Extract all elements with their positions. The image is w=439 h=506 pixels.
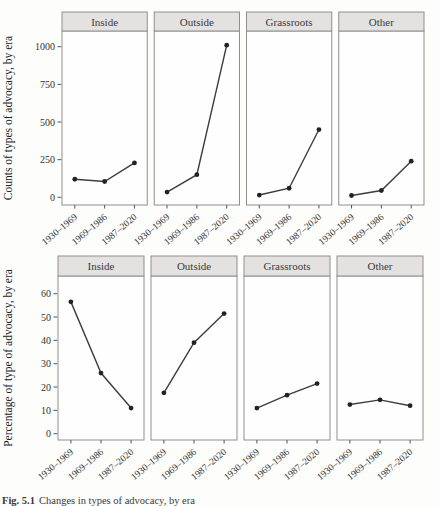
data-point bbox=[129, 406, 134, 411]
data-point bbox=[285, 393, 290, 398]
data-point bbox=[315, 381, 320, 386]
y-tick-label: 30 bbox=[41, 358, 51, 369]
facet-strip-label: Grassroots bbox=[263, 260, 310, 272]
y-tick-label: 40 bbox=[41, 335, 51, 346]
data-point bbox=[194, 172, 199, 177]
y-axis-title: Percentage of type of advocacy, by era bbox=[2, 269, 15, 447]
data-point bbox=[409, 159, 414, 164]
data-point bbox=[348, 402, 353, 407]
data-point bbox=[379, 188, 384, 193]
data-point bbox=[132, 161, 137, 166]
facet-strip-label: Inside bbox=[91, 16, 118, 28]
y-tick-label: 10 bbox=[41, 405, 51, 416]
data-point bbox=[287, 186, 292, 191]
facet-strip-label: Outside bbox=[177, 260, 211, 272]
y-tick-label: 500 bbox=[40, 117, 55, 128]
figure-caption: Fig. 5.1Changes in types of advocacy, by… bbox=[2, 495, 195, 506]
figure-caption-label: Fig. 5.1 bbox=[2, 495, 35, 506]
data-point bbox=[378, 397, 383, 402]
y-tick-label: 20 bbox=[41, 382, 51, 393]
data-point bbox=[255, 406, 260, 411]
data-point bbox=[69, 299, 74, 304]
y-tick-label: 750 bbox=[40, 79, 55, 90]
panel-plot-area bbox=[339, 31, 424, 205]
data-point bbox=[102, 179, 107, 184]
facet-strip-label: Inside bbox=[88, 260, 115, 272]
y-tick-label: 1000 bbox=[35, 41, 55, 52]
data-point bbox=[192, 340, 197, 345]
facet-strip-label: Other bbox=[367, 260, 392, 272]
y-axis-title: Counts of types of advocacy, by era bbox=[2, 36, 15, 200]
panel-plot-area bbox=[337, 276, 423, 440]
panel-plot-area bbox=[244, 276, 330, 440]
y-tick-label: 250 bbox=[40, 154, 55, 165]
data-point bbox=[165, 190, 170, 195]
data-point bbox=[408, 403, 413, 408]
y-tick-label: 0 bbox=[50, 192, 55, 203]
data-point bbox=[317, 127, 322, 132]
data-point bbox=[349, 193, 354, 198]
y-tick-label: 50 bbox=[41, 312, 51, 323]
panel-plot-area bbox=[154, 31, 239, 205]
data-point bbox=[99, 371, 104, 376]
data-point bbox=[162, 390, 167, 395]
y-tick-label: 0 bbox=[46, 428, 51, 439]
data-point bbox=[257, 193, 262, 198]
data-point bbox=[224, 43, 229, 48]
data-point bbox=[72, 177, 77, 182]
facet-strip-label: Grassroots bbox=[266, 16, 313, 28]
facet-strip-label: Other bbox=[369, 16, 394, 28]
y-tick-label: 60 bbox=[41, 288, 51, 299]
data-point bbox=[222, 311, 227, 316]
facet-strip-label: Outside bbox=[180, 16, 214, 28]
panel-plot-area bbox=[247, 31, 332, 205]
figure-caption-text: Changes in types of advocacy, by era bbox=[39, 495, 195, 506]
panel-plot-area bbox=[151, 276, 237, 440]
